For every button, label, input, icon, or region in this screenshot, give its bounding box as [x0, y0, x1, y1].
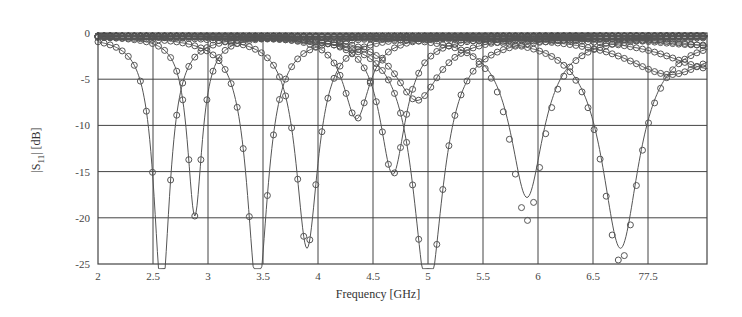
- sim-curve: [98, 36, 707, 174]
- measured-point: [531, 199, 537, 205]
- x-tick: 4.5: [366, 270, 380, 282]
- svg-text:|S11| [dB]: |S11| [dB]: [29, 127, 46, 172]
- sim-curve: [98, 36, 707, 248]
- grid-lines: [98, 33, 707, 264]
- plot-frame: [98, 33, 707, 264]
- x-tick-labels: 22.533.544.555.566.577.5: [95, 270, 658, 282]
- measured-point: [591, 127, 597, 133]
- measured-point: [621, 253, 627, 259]
- sim-curve: [98, 36, 707, 119]
- y-tick: -5: [81, 73, 91, 85]
- y-tick-labels: 0-5-10-15-20-25: [75, 27, 90, 270]
- sim-curve: [98, 36, 707, 269]
- x-tick: 3.5: [256, 270, 270, 282]
- measured-point: [519, 205, 525, 211]
- sim-curve: [98, 37, 707, 269]
- y-tick: -20: [75, 212, 90, 224]
- sim-curve: [98, 36, 707, 248]
- measured-point: [633, 183, 639, 189]
- x-tick: 6: [535, 270, 541, 282]
- sim-curves: [98, 36, 707, 269]
- x-axis-label: Frequency [GHz]: [336, 287, 420, 301]
- y-tick: -15: [75, 166, 90, 178]
- measured-point: [603, 193, 609, 199]
- s11-chart: 22.533.544.555.566.577.5 0-5-10-15-20-25…: [0, 0, 742, 317]
- x-tick: 4: [315, 270, 321, 282]
- measured-point: [561, 62, 567, 68]
- x-tick: 3: [205, 270, 211, 282]
- x-tick: 5: [425, 270, 431, 282]
- y-tick: -10: [75, 119, 90, 131]
- x-tick: 2: [95, 270, 101, 282]
- y-tick: 0: [85, 27, 91, 39]
- x-tick: 5.5: [476, 270, 490, 282]
- sim-curve: [98, 36, 707, 269]
- y-tick: -25: [75, 258, 90, 270]
- measured-point: [615, 257, 621, 263]
- x-tick: 77.5: [638, 270, 658, 282]
- y-axis-label: |S11| [dB]: [29, 127, 46, 172]
- x-tick: 6.5: [586, 270, 600, 282]
- x-tick: 2.5: [146, 270, 160, 282]
- measured-point: [640, 147, 646, 153]
- measured-point: [597, 156, 603, 162]
